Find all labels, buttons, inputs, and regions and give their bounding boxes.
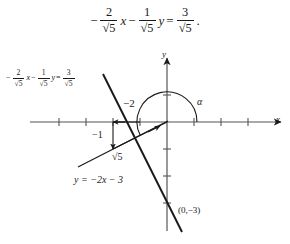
label-angle-alpha: α	[197, 97, 202, 107]
main-eq-variable-x: x	[120, 14, 126, 27]
line-eq-frac3-denominator: √5	[63, 80, 75, 88]
line-eq-fraction-3: 3 √5	[63, 69, 75, 87]
label-negative-two: −2	[123, 98, 135, 109]
main-equation: − 2 √5 x − 1 √5 y = 3 √5 .	[0, 6, 290, 34]
line-eq-frac2-denominator: √5	[38, 80, 50, 88]
main-eq-frac2-numerator: 1	[142, 6, 152, 19]
main-eq-fraction-1: 2 √5	[100, 6, 117, 34]
x-axis	[30, 118, 281, 126]
main-eq-frac2-denominator: √5	[139, 22, 156, 35]
normal-vector-arrowhead	[148, 126, 160, 132]
main-eq-frac1-numerator: 2	[104, 6, 114, 19]
label-y-intercept-point: (0,−3)	[178, 206, 200, 215]
line-eq-equals-sign: =	[56, 74, 61, 82]
line-eq-frac1-numerator: 2	[15, 69, 23, 77]
axis-label-y: y	[162, 50, 166, 59]
line-eq-minus-2: −	[31, 74, 36, 82]
coordinate-plane-svg	[0, 0, 290, 244]
label-square-root-five: √5	[112, 152, 123, 162]
main-eq-minus-1: −	[90, 14, 97, 27]
line-eq-frac3-numerator: 3	[65, 69, 73, 77]
line-eq-fraction-2: 1 √5	[38, 69, 50, 87]
line-eq-frac1-denominator: √5	[13, 80, 25, 88]
main-eq-minus-2: −	[128, 14, 135, 27]
figure-canvas: − 2 √5 x − 1 √5 y = 3 √5 .	[0, 0, 290, 244]
line-equation-label: − 2 √5 x − 1 √5 y = 3 √5	[6, 69, 76, 87]
main-eq-frac1-denominator: √5	[100, 22, 117, 35]
y-axis	[163, 58, 171, 231]
line-eq-variable-y: y	[52, 74, 56, 82]
main-eq-frac3-numerator: 3	[180, 6, 190, 19]
line-eq-frac2-numerator: 1	[40, 69, 48, 77]
main-eq-equals-sign: =	[166, 14, 173, 27]
line-eq-fraction-1: 2 √5	[13, 69, 25, 87]
main-eq-period: .	[197, 14, 200, 27]
main-eq-variable-y: y	[159, 14, 165, 27]
axis-label-x: x	[276, 115, 280, 124]
main-eq-fraction-3: 3 √5	[177, 6, 194, 34]
main-eq-fraction-2: 1 √5	[139, 6, 156, 34]
line-eq-minus-1: −	[6, 74, 11, 82]
label-negative-one: −1	[92, 130, 103, 140]
label-slope-intercept-equation: y = −2x − 3	[74, 175, 123, 185]
line-eq-variable-x: x	[26, 74, 30, 82]
main-eq-frac3-denominator: √5	[177, 22, 194, 35]
